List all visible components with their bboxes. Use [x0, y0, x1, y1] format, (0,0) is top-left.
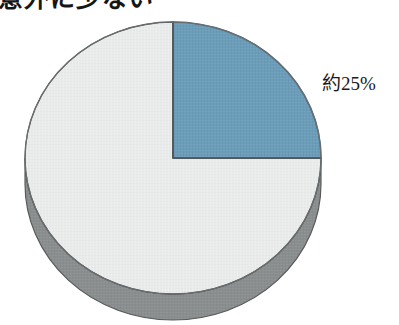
slice-value-label: 約25%	[322, 72, 376, 96]
pie-chart-figure: 意外に少ない	[0, 0, 399, 325]
pie-chart	[0, 0, 399, 325]
pie-slice-highlight	[173, 22, 321, 158]
pie-chart-svg	[0, 0, 399, 325]
